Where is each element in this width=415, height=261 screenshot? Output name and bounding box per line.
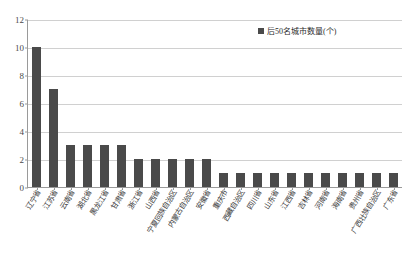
y-tick-label: 6 (20, 99, 25, 109)
bar[interactable] (83, 145, 92, 187)
x-axis-labels: 辽宁省江苏省云南省湖北省黑龙江省甘肃省浙江省山西省宁夏回族自治区内蒙古自治区安徽… (27, 189, 402, 257)
bar[interactable] (168, 159, 177, 187)
bar-slot (232, 20, 249, 187)
plot-area: 024681012 (27, 20, 402, 188)
x-axis-label: 河南省 (314, 189, 332, 211)
bar-series (28, 20, 402, 187)
x-axis-label: 甘肃省 (110, 189, 128, 211)
bar-chart: 后50名城市数量(个) 024681012 辽宁省江苏省云南省湖北省黑龙江省甘肃… (0, 0, 415, 261)
bar-slot (181, 20, 198, 187)
bar-slot (164, 20, 181, 187)
x-axis-label: 四川省 (246, 189, 264, 211)
bar-slot (79, 20, 96, 187)
bar-slot (317, 20, 334, 187)
bar[interactable] (117, 145, 126, 187)
x-axis-label: 江西省 (280, 189, 298, 211)
bar[interactable] (304, 173, 313, 187)
bar[interactable] (338, 173, 347, 187)
bar-slot (62, 20, 79, 187)
bar-slot (351, 20, 368, 187)
bar[interactable] (32, 47, 41, 187)
y-tick-label: 2 (20, 155, 25, 165)
bar[interactable] (202, 159, 211, 187)
bar[interactable] (66, 145, 75, 187)
y-tick-label: 4 (20, 127, 25, 137)
x-axis-label: 浙江省 (127, 189, 145, 211)
bar[interactable] (49, 89, 58, 187)
x-axis-label: 山东省 (263, 189, 281, 211)
y-tick-label: 8 (20, 71, 25, 81)
bar[interactable] (185, 159, 194, 187)
bar[interactable] (253, 173, 262, 187)
bar-slot (147, 20, 164, 187)
bar-slot (368, 20, 385, 187)
bar-slot (96, 20, 113, 187)
x-axis-label: 吉林省 (297, 189, 315, 211)
bar[interactable] (355, 173, 364, 187)
bar[interactable] (134, 159, 143, 187)
bar[interactable] (219, 173, 228, 187)
bar[interactable] (321, 173, 330, 187)
y-tick-label: 10 (15, 43, 24, 53)
bar-slot (215, 20, 232, 187)
bar-slot (266, 20, 283, 187)
x-axis-label: 江苏省 (41, 189, 59, 211)
y-tick-label: 0 (20, 183, 25, 193)
bar-slot (198, 20, 215, 187)
x-axis-label: 辽宁省 (24, 189, 42, 211)
bar[interactable] (100, 145, 109, 187)
bar-slot (385, 20, 402, 187)
bar[interactable] (151, 159, 160, 187)
x-axis-label: 安徽省 (195, 189, 213, 211)
bar[interactable] (270, 173, 279, 187)
bar[interactable] (372, 173, 381, 187)
bar-slot (45, 20, 62, 187)
x-axis-label: 海南省 (331, 189, 349, 211)
x-axis-label: 广东省 (382, 189, 400, 211)
bar-slot (300, 20, 317, 187)
y-tick-label: 12 (15, 15, 24, 25)
bar-slot (334, 20, 351, 187)
bar-slot (113, 20, 130, 187)
bar-slot (28, 20, 45, 187)
bar-slot (283, 20, 300, 187)
bar[interactable] (236, 173, 245, 187)
x-axis-label: 云南省 (58, 189, 76, 211)
bar-slot (249, 20, 266, 187)
bar[interactable] (389, 173, 398, 187)
bar[interactable] (287, 173, 296, 187)
bar-slot (130, 20, 147, 187)
